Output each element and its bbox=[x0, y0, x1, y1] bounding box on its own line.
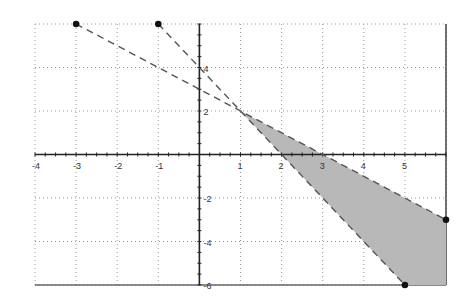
x-tick-label: 1 bbox=[238, 161, 243, 171]
endpoint-dot bbox=[443, 216, 450, 223]
y-tick-label: 2 bbox=[203, 107, 208, 117]
y-tick-label: -6 bbox=[203, 281, 211, 291]
y-tick-label: -4 bbox=[203, 238, 211, 248]
x-tick-label: 2 bbox=[279, 161, 284, 171]
endpoint-dot bbox=[402, 282, 409, 289]
x-tick-label: 4 bbox=[361, 161, 366, 171]
x-tick-label: -3 bbox=[73, 161, 81, 171]
y-tick-label: 4 bbox=[203, 64, 208, 74]
coordinate-plane: -4-3-2-11234542-2-4-6 bbox=[0, 0, 464, 298]
x-tick-label: -2 bbox=[114, 161, 122, 171]
x-tick-label: -4 bbox=[32, 161, 40, 171]
y-tick-label: -2 bbox=[203, 194, 211, 204]
endpoint-dot bbox=[155, 21, 162, 28]
x-tick-label: 5 bbox=[402, 161, 407, 171]
endpoint-dot bbox=[73, 21, 80, 28]
x-tick-label: 3 bbox=[320, 161, 325, 171]
x-tick-label: -1 bbox=[155, 161, 163, 171]
